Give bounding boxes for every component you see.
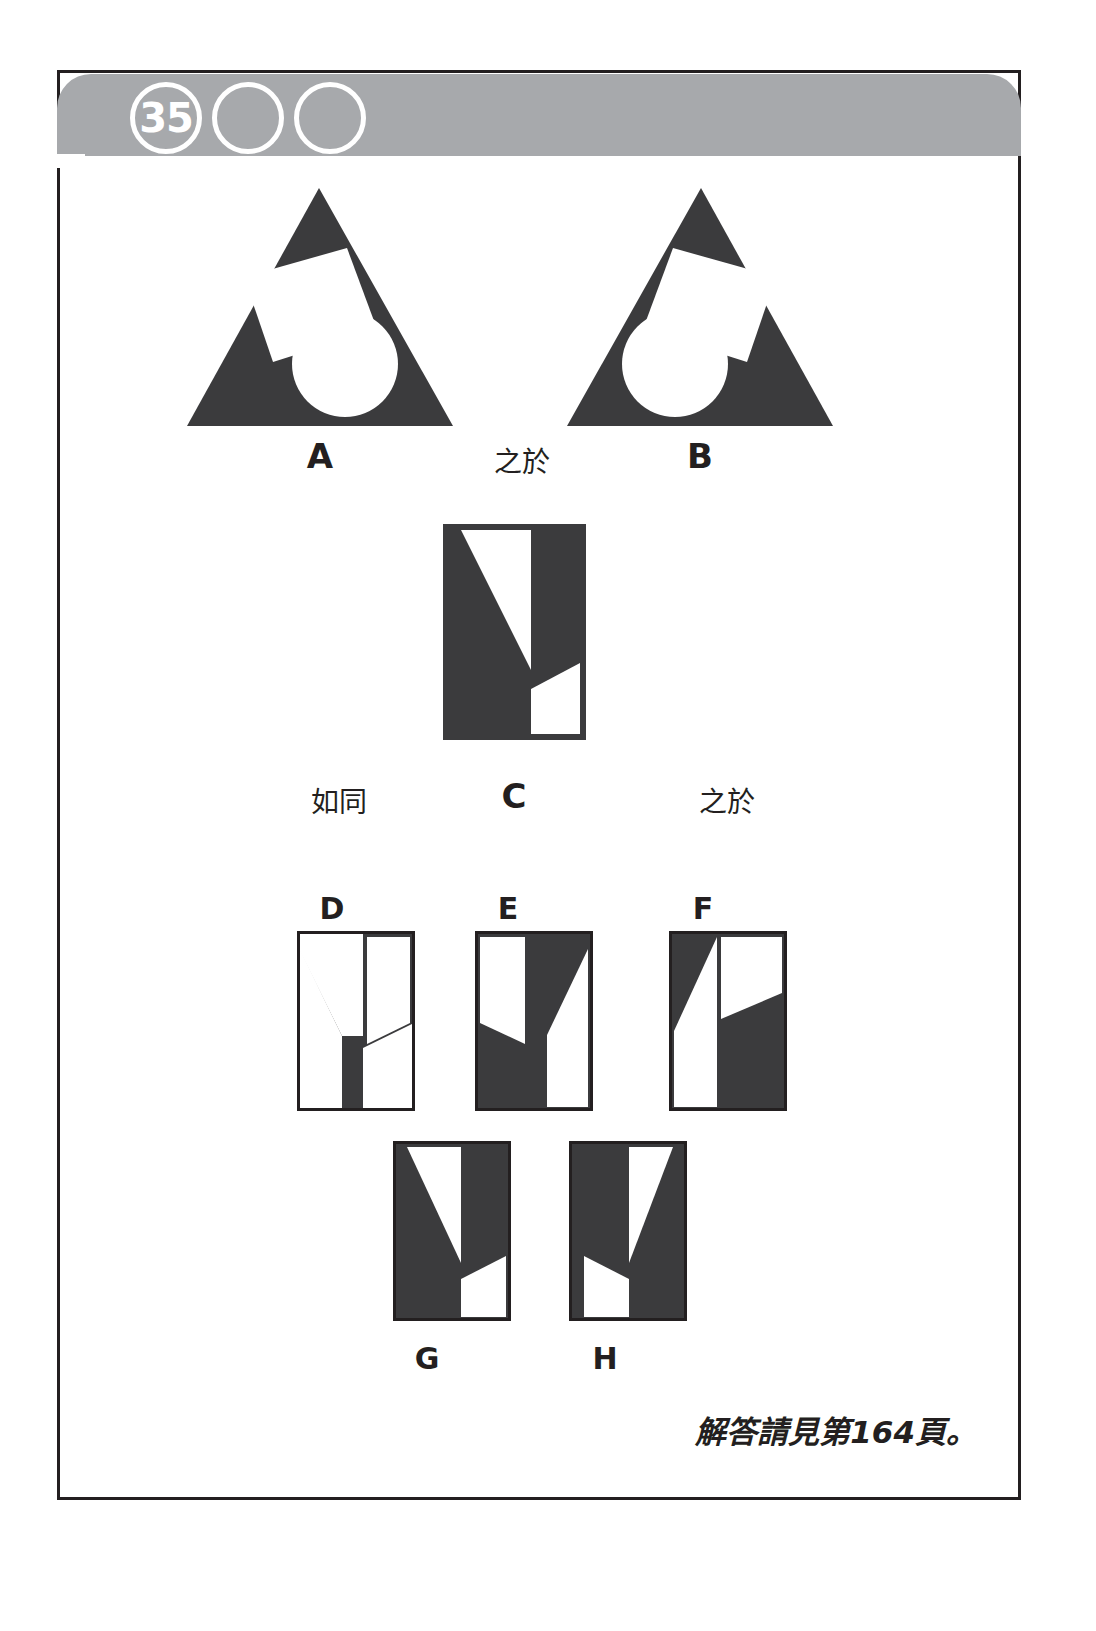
option-row-gh xyxy=(57,1141,1021,1341)
option-h-graphic xyxy=(569,1141,687,1321)
figure-b-graphic xyxy=(565,186,835,428)
option-d[interactable] xyxy=(297,931,415,1111)
connector-is-to-2: 之於 xyxy=(657,780,797,820)
option-label-e: E xyxy=(478,891,538,926)
label-row-ab: A 之於 B xyxy=(57,436,1021,486)
option-e[interactable] xyxy=(475,931,593,1111)
header-circle-2 xyxy=(212,82,284,154)
figure-row-ab xyxy=(57,186,1021,426)
puzzle-number: 35 xyxy=(139,98,193,138)
header-circle-3 xyxy=(294,82,366,154)
option-label-row-1: D E F xyxy=(57,891,1021,931)
connector-as: 如同 xyxy=(269,780,409,820)
header-circle-group: 35 xyxy=(130,82,366,154)
connector-is-to-1: 之於 xyxy=(457,440,587,480)
option-label-row-2: G H xyxy=(57,1341,1021,1381)
option-row-def xyxy=(57,931,1021,1131)
option-g-graphic xyxy=(393,1141,511,1321)
option-label-g: G xyxy=(397,1341,457,1376)
figure-b xyxy=(565,186,835,428)
option-e-graphic xyxy=(475,931,593,1111)
option-label-d: D xyxy=(302,891,362,926)
label-row-c: 如同 C 之於 xyxy=(57,776,1021,826)
figure-c xyxy=(443,524,586,740)
option-label-f: F xyxy=(673,891,733,926)
figure-label-a: A xyxy=(285,436,355,476)
answer-reference: 解答請見第164頁。 xyxy=(695,1407,977,1452)
white-circle xyxy=(622,311,728,417)
white-circle xyxy=(292,311,398,417)
option-label-h: H xyxy=(575,1341,635,1376)
figure-a xyxy=(185,186,455,428)
figure-a-graphic xyxy=(185,186,455,428)
option-g[interactable] xyxy=(393,1141,511,1321)
figure-c-graphic xyxy=(443,524,586,740)
puzzle-content: A 之於 B 如同 C 之於 D E F xyxy=(57,156,1021,1500)
option-d-graphic xyxy=(297,931,415,1111)
figure-label-c: C xyxy=(479,776,549,816)
option-f[interactable] xyxy=(669,931,787,1111)
option-h[interactable] xyxy=(569,1141,687,1321)
figure-label-b: B xyxy=(665,436,735,476)
puzzle-number-circle: 35 xyxy=(130,82,202,154)
option-f-graphic xyxy=(669,931,787,1111)
